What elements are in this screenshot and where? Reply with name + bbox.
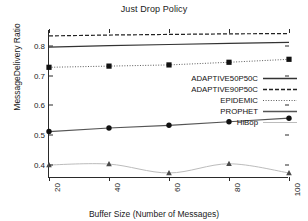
y-tick-mark-right (285, 135, 289, 136)
series-adaptive90p50c (49, 34, 289, 36)
y-tick-mark (49, 164, 53, 165)
series-adaptive50p50c (49, 42, 289, 47)
x-tick-mark (289, 177, 290, 181)
y-tick-label: 0.6 (34, 101, 45, 110)
x-tick-mark-top (49, 29, 50, 33)
x-tick-label: 100 (293, 183, 302, 196)
legend-label: HiBop (237, 118, 262, 127)
legend-item-prophet: PROPHET (150, 106, 298, 117)
legend-line-sample (262, 74, 298, 83)
legend-line-sample (262, 85, 298, 94)
data-point-marker (106, 125, 111, 130)
x-tick-mark (49, 177, 50, 181)
y-tick-label: 0.8 (34, 42, 45, 51)
data-point-marker (46, 65, 51, 70)
y-tick-label: 0.5 (34, 131, 45, 140)
legend-line-sample (262, 96, 298, 105)
x-tick-label: 60 (173, 183, 182, 192)
legend-item-epidemic: EPIDEMIC (150, 95, 298, 106)
y-tick-mark (49, 105, 53, 106)
series-line (49, 42, 289, 47)
y-tick-label: 0.4 (34, 160, 45, 169)
data-point-marker (106, 64, 111, 69)
legend-label: ADAPTIVE50P50C (191, 74, 262, 83)
chart-title: Just Drop Policy (0, 4, 308, 14)
y-tick-mark (49, 135, 53, 136)
y-tick-mark (49, 46, 53, 47)
legend-line-sample (262, 107, 298, 116)
chart-figure: Just Drop Policy MessageDelivery Ratio 0… (0, 0, 308, 221)
series-hibop (46, 161, 292, 175)
x-tick-label: 40 (113, 183, 122, 192)
chart-legend: ADAPTIVE50P50CADAPTIVE90P50CEPIDEMICPROP… (150, 73, 298, 128)
x-tick-mark-top (169, 29, 170, 33)
x-axis-label: Buffer Size (Number of Messages) (0, 209, 308, 219)
data-point-marker (286, 57, 291, 62)
data-point-marker (226, 60, 231, 65)
legend-label: PROPHET (220, 107, 262, 116)
y-tick-mark-right (285, 164, 289, 165)
y-axis-label: MessageDelivery Ratio (12, 2, 22, 132)
x-tick-label: 80 (233, 183, 242, 192)
legend-item-adaptive90p50c: ADAPTIVE90P50C (150, 84, 298, 95)
data-point-marker (166, 62, 171, 67)
x-tick-mark (169, 177, 170, 181)
legend-label: ADAPTIVE90P50C (191, 85, 262, 94)
legend-label: EPIDEMIC (220, 96, 262, 105)
y-tick-label: 0.7 (34, 71, 45, 80)
y-tick-mark-right (285, 46, 289, 47)
legend-item-hibop: HiBop (150, 117, 298, 128)
data-point-marker (46, 129, 51, 134)
legend-line-sample (262, 118, 298, 127)
y-tick-mark (49, 75, 53, 76)
series-epidemic (46, 57, 291, 70)
x-tick-mark (109, 177, 110, 181)
x-tick-label: 20 (53, 183, 62, 192)
legend-item-adaptive50p50c: ADAPTIVE50P50C (150, 73, 298, 84)
x-tick-mark (229, 177, 230, 181)
series-line (49, 34, 289, 36)
x-tick-mark-top (229, 29, 230, 33)
x-tick-mark-top (289, 29, 290, 33)
x-tick-mark-top (109, 29, 110, 33)
